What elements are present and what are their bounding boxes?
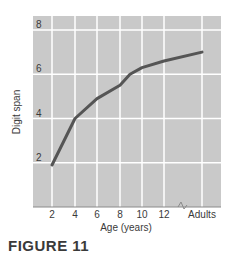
x-tick-label: Adults (188, 209, 216, 220)
x-tick-label: 4 (72, 209, 78, 220)
x-tick-label: 6 (94, 209, 100, 220)
x-tick-label: 10 (136, 209, 148, 220)
y-tick-label: 4 (36, 108, 42, 119)
x-tick-label: 12 (158, 209, 170, 220)
figure-caption: FIGURE 11 (8, 237, 89, 254)
x-axis-ticks: 24681012Adults (49, 209, 216, 220)
y-tick-label: 6 (36, 63, 42, 74)
plot-area (33, 16, 221, 207)
y-tick-label: 2 (36, 152, 42, 163)
x-tick-label: 8 (117, 209, 123, 220)
x-tick-label: 2 (49, 209, 55, 220)
x-axis-label: Age (years) (100, 222, 152, 233)
y-tick-label: 8 (36, 19, 42, 30)
y-axis-label: Digit span (11, 90, 22, 134)
